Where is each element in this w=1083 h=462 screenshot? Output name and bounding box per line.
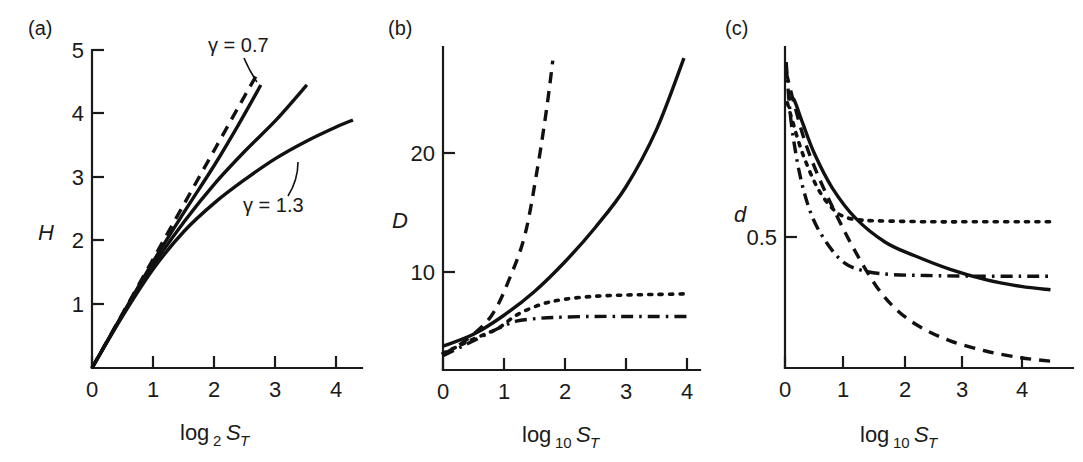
panel-a-annotation-gamma07: γ = 0.7 <box>208 34 269 56</box>
panel-c-xlabel-var-sub: T <box>928 434 939 451</box>
panel-b-xlabel-log: log <box>522 422 551 447</box>
panel-b-plot: (b) 20 10 0 1 2 3 <box>370 0 720 462</box>
panel-a-x-ticks <box>92 356 336 368</box>
curve-c-series-dashdot <box>786 62 1050 276</box>
panel-c-curves <box>786 62 1050 361</box>
panel-c-x-ticks <box>785 356 1022 368</box>
panel-c-x-axis-label: log 10 S T <box>860 422 939 451</box>
panel-a-xlabel-log: log <box>180 420 209 445</box>
panel-a-ytick-1: 1 <box>72 292 84 317</box>
panel-a-ytick-5: 5 <box>72 38 84 63</box>
panel-b-y-axis-label: D <box>392 208 408 233</box>
curve-c-series-solid <box>789 98 1050 290</box>
panel-a-plot: (a) 5 4 3 2 1 <box>0 0 380 462</box>
panel-c-xlabel-log: log <box>860 422 889 447</box>
panel-a-ytick-4: 4 <box>72 101 84 126</box>
panel-a-leader-gamma13 <box>288 162 298 196</box>
panel-a-xlabel-base: 2 <box>213 432 221 449</box>
curve-a-gamma-1.3 <box>92 120 353 368</box>
panel-a-xtick-0: 0 <box>86 377 98 402</box>
panel-a-x-axis-label: log 2 S T <box>180 420 251 449</box>
curve-b-series-dashed <box>443 61 553 355</box>
panel-b-x-axis-label: log 10 S T <box>522 422 601 451</box>
curve-c-series-dashed <box>786 72 1050 361</box>
panel-b: (b) 20 10 0 1 2 3 <box>370 0 720 462</box>
panel-b-xlabel-base: 10 <box>555 434 572 451</box>
panel-c-y-ticklabels: 0.5 <box>746 225 777 250</box>
panel-b-y-ticks <box>443 153 455 272</box>
panel-a-y-ticks <box>92 50 104 304</box>
panel-c: (c) 0.5 0 1 2 3 4 <box>710 0 1083 462</box>
panel-a-ytick-2: 2 <box>72 228 84 253</box>
panel-b-ytick-10: 10 <box>411 260 435 285</box>
panel-a-xtick-1: 1 <box>147 377 159 402</box>
panel-a-xtick-4: 4 <box>330 377 342 402</box>
panel-c-xtick-0: 0 <box>779 377 791 402</box>
panel-b-xtick-3: 3 <box>620 379 632 404</box>
panel-a-annotation-gamma13: γ = 1.3 <box>243 194 304 216</box>
panel-b-x-ticks <box>443 358 687 370</box>
panel-b-ytick-20: 20 <box>411 141 435 166</box>
panel-b-xtick-1: 1 <box>498 379 510 404</box>
panel-c-xlabel-var: S <box>914 422 929 447</box>
panel-c-x-ticklabels: 0 1 2 3 4 <box>779 377 1028 402</box>
figure-container: (a) 5 4 3 2 1 <box>0 0 1083 462</box>
panel-a-letter: (a) <box>28 17 52 39</box>
panel-a-xlabel-var-sub: T <box>240 432 251 449</box>
panel-a-leader-gamma07 <box>244 58 257 82</box>
panel-b-xlabel-var: S <box>576 422 591 447</box>
panel-b-curves <box>443 58 687 356</box>
panel-a-y-axis-label: H <box>38 220 54 245</box>
curve-b-series-solid <box>443 58 684 346</box>
panel-c-ytick-05: 0.5 <box>746 225 777 250</box>
curve-b-series-dotted <box>443 294 687 354</box>
panel-b-y-ticklabels: 20 10 <box>411 141 435 285</box>
panel-c-xtick-1: 1 <box>837 377 849 402</box>
panel-a: (a) 5 4 3 2 1 <box>0 0 380 462</box>
panel-b-letter: (b) <box>388 17 412 39</box>
panel-b-xtick-0: 0 <box>437 379 449 404</box>
curve-a-gamma-1.0 <box>92 85 307 368</box>
panel-a-x-ticklabels: 0 1 2 3 4 <box>86 377 342 402</box>
panel-a-xtick-3: 3 <box>269 377 281 402</box>
panel-b-xtick-2: 2 <box>559 379 571 404</box>
panel-c-letter: (c) <box>725 17 748 39</box>
panel-c-plot: (c) 0.5 0 1 2 3 4 <box>710 0 1083 462</box>
panel-a-xlabel-var: S <box>226 420 241 445</box>
panel-c-y-axis-label: d <box>734 202 747 227</box>
curve-c-series-dotted <box>787 103 1050 222</box>
panel-c-xlabel-base: 10 <box>893 434 910 451</box>
panel-c-xtick-4: 4 <box>1016 377 1028 402</box>
panel-b-xtick-4: 4 <box>681 379 693 404</box>
panel-a-y-ticklabels: 5 4 3 2 1 <box>72 38 84 317</box>
panel-c-xtick-3: 3 <box>956 377 968 402</box>
panel-b-x-ticklabels: 0 1 2 3 4 <box>437 379 693 404</box>
panel-a-curves <box>92 71 353 368</box>
panel-c-xtick-2: 2 <box>899 377 911 402</box>
panel-b-xlabel-var-sub: T <box>590 434 601 451</box>
panel-a-xtick-2: 2 <box>208 377 220 402</box>
panel-a-ytick-3: 3 <box>72 165 84 190</box>
